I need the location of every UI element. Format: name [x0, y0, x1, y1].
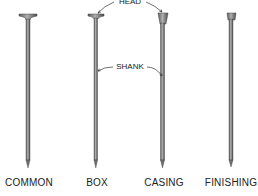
nails-diagram: [0, 0, 258, 196]
casing-nail: [158, 13, 168, 168]
finishing-nail: [227, 13, 236, 167]
shank-callout-label: SHANK: [115, 62, 145, 71]
box-label: BOX: [86, 177, 108, 188]
finishing-label: FINISHING: [205, 177, 257, 188]
box-nail: [88, 14, 104, 168]
common-nail: [19, 14, 37, 168]
head-callout-label: HEAD: [118, 0, 142, 6]
casing-label: CASING: [144, 177, 184, 188]
common-label: COMMON: [5, 177, 53, 188]
